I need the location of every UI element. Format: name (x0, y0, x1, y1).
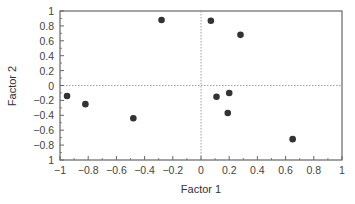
y-tick-label: −0.4 (33, 109, 54, 121)
y-tick-label: 0.8 (39, 20, 54, 32)
scatter-chart: −1−0.8−0.6−0.4−0.200.20.40.60.8110.80.60… (0, 0, 355, 204)
y-tick-label: −0.2 (33, 94, 54, 106)
x-axis-label: Factor 1 (181, 183, 221, 195)
data-point (130, 115, 137, 122)
data-point (226, 90, 233, 97)
x-tick-label: 0.2 (222, 164, 237, 176)
data-point (289, 136, 296, 143)
y-tick-label: −0.8 (33, 139, 54, 151)
data-point (237, 32, 244, 39)
x-tick-label: −0.2 (162, 164, 183, 176)
x-tick-label: 0 (198, 164, 204, 176)
plot-area: −1−0.8−0.6−0.4−0.200.20.40.60.8110.80.60… (33, 5, 345, 176)
y-tick-label: 1 (48, 154, 54, 166)
x-tick-label: 0.8 (306, 164, 321, 176)
x-tick-label: −0.6 (106, 164, 127, 176)
x-tick-label: 0.6 (278, 164, 293, 176)
data-point (224, 110, 231, 117)
x-tick-label: 0.4 (250, 164, 265, 176)
y-tick-label: 0 (48, 80, 54, 92)
x-tick-label: −0.8 (78, 164, 99, 176)
data-point (64, 93, 71, 100)
x-tick-label: 1 (339, 164, 345, 176)
y-tick-label: 1 (48, 5, 54, 17)
y-axis-label: Factor 2 (6, 66, 18, 106)
y-tick-label: −0.6 (33, 124, 54, 136)
data-point (213, 93, 220, 100)
data-point (158, 17, 165, 24)
data-point (82, 101, 89, 108)
data-point (208, 17, 215, 24)
y-tick-label: 0.6 (39, 35, 54, 47)
x-tick-label: −1 (54, 164, 66, 176)
x-tick-label: −0.4 (134, 164, 155, 176)
y-tick-label: 0.4 (39, 50, 54, 62)
y-tick-label: 0.2 (39, 65, 54, 77)
